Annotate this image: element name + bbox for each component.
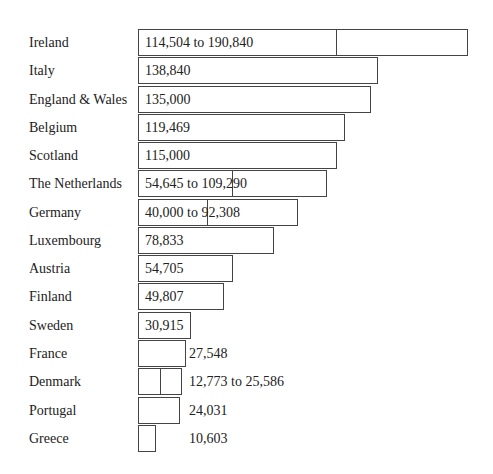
chart-row: Austria54,705 [0, 255, 493, 283]
category-label: Portugal [29, 397, 76, 425]
chart-row: Italy138,840 [0, 57, 493, 85]
value-label: 135,000 [145, 86, 191, 114]
value-label: 54,705 [145, 255, 184, 283]
category-label: England & Wales [29, 86, 127, 114]
chart-row: Luxembourg78,833 [0, 227, 493, 255]
category-label: Germany [29, 199, 81, 227]
horizontal-bar-chart: Ireland114,504 to 190,840Italy138,840Eng… [0, 0, 493, 474]
value-label: 24,031 [189, 397, 228, 425]
value-label: 40,000 to 92,308 [145, 199, 240, 227]
chart-row: Scotland115,000 [0, 142, 493, 170]
value-label: 115,000 [145, 142, 190, 170]
category-label: France [29, 340, 67, 368]
bar [138, 397, 180, 424]
value-label: 49,807 [145, 283, 184, 311]
chart-row: Finland49,807 [0, 283, 493, 311]
value-label: 138,840 [145, 57, 191, 85]
value-label: 114,504 to 190,840 [145, 29, 253, 57]
value-label: 54,645 to 109,290 [145, 170, 247, 198]
category-label: Denmark [29, 368, 81, 396]
value-label: 119,469 [145, 114, 190, 142]
chart-row: France27,548 [0, 340, 493, 368]
category-label: Austria [29, 255, 70, 283]
range-divider [336, 29, 337, 56]
category-label: Belgium [29, 114, 77, 142]
category-label: Luxembourg [29, 227, 101, 255]
chart-row: The Netherlands54,645 to 109,290 [0, 170, 493, 198]
value-label: 30,915 [145, 312, 184, 340]
category-label: The Netherlands [29, 170, 122, 198]
chart-row: England & Wales135,000 [0, 86, 493, 114]
range-divider [160, 368, 161, 395]
chart-row: Portugal24,031 [0, 397, 493, 425]
chart-row: Ireland114,504 to 190,840 [0, 29, 493, 57]
bar [138, 340, 186, 367]
chart-row: Belgium119,469 [0, 114, 493, 142]
category-label: Scotland [29, 142, 78, 170]
value-label: 12,773 to 25,586 [189, 368, 284, 396]
category-label: Sweden [29, 312, 73, 340]
bar [138, 425, 156, 452]
category-label: Greece [29, 425, 69, 453]
value-label: 27,548 [189, 340, 228, 368]
value-label: 78,833 [145, 227, 184, 255]
category-label: Italy [29, 57, 55, 85]
chart-row: Sweden30,915 [0, 312, 493, 340]
chart-row: Germany40,000 to 92,308 [0, 199, 493, 227]
chart-row: Denmark12,773 to 25,586 [0, 368, 493, 396]
category-label: Finland [29, 283, 72, 311]
value-label: 10,603 [189, 425, 228, 453]
category-label: Ireland [29, 29, 69, 57]
chart-row: Greece10,603 [0, 425, 493, 453]
